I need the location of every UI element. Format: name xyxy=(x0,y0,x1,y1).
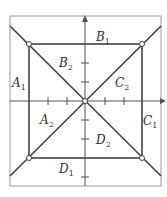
diagram: A1A2B1B2C1C2D1D2 xyxy=(0,0,167,197)
label-b1: B1 xyxy=(96,31,110,46)
axis-ticks xyxy=(48,63,124,177)
diagram-graphic xyxy=(0,0,167,197)
label-c1: C1 xyxy=(143,115,157,130)
label-d2: D2 xyxy=(96,134,111,149)
label-d1: D1 xyxy=(59,163,74,178)
label-c2: C2 xyxy=(115,77,129,92)
x-axis-arrow-icon xyxy=(160,98,166,104)
label-a1: A1 xyxy=(12,77,26,92)
label-b2: B2 xyxy=(59,57,73,72)
label-a2: A2 xyxy=(40,114,54,129)
